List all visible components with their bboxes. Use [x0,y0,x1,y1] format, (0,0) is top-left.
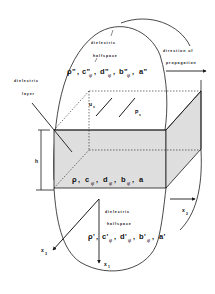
svg-text:ijl: ijl [91,182,94,186]
svg-text:ρ: ρ [72,175,77,184]
p-vector-line [119,98,135,117]
lower-halfspace-boundary [54,188,166,271]
svg-text:ijl: ijl [127,74,130,78]
layer-pointer-line [32,103,72,152]
propagation-label-line2: propagation [166,61,197,65]
svg-text:ijl: ijl [109,239,112,243]
propagation-label-line1: direction of [163,49,193,53]
upper-region-label-line1: dielectric [91,41,116,45]
svg-text:ρ": ρ" [67,67,76,76]
svg-text:,: , [94,67,96,76]
layer-label-line2: layer [22,92,35,96]
svg-text:,: , [133,232,135,241]
svg-text:ijl: ijl [108,74,111,78]
u-vector-line [96,98,112,116]
svg-text:a": a" [139,67,148,76]
svg-text:,: , [132,175,134,184]
upper-region-label-line2: halfspace [93,54,118,58]
upper-arc [121,19,190,46]
svg-text:ijl: ijl [89,74,92,78]
svg-text:a': a' [159,232,166,241]
svg-text:,: , [132,67,134,76]
svg-text:d: d [103,175,108,184]
svg-text:ijl: ijl [147,239,150,243]
lower-params: ρ' , c' ijl , d' ijl , b' ijl , a' [88,232,166,243]
svg-text:ijl: ijl [128,239,131,243]
svg-text:,: , [96,232,98,241]
x3-label: x [41,247,44,253]
svg-text:ρ': ρ' [88,232,95,241]
lower-region-label-line2: halfspace [107,222,132,226]
diagram-canvas: h dielectric layer dielectric halfspace … [0,0,215,294]
svg-text:,: , [114,175,116,184]
x3-axis [53,199,99,250]
layer-front-face [54,130,166,188]
lower-region-label-line1: dielectric [105,210,130,214]
layer-label-line1: dielectric [14,79,39,83]
svg-text:,: , [77,67,79,76]
svg-text:ijl: ijl [109,182,112,186]
svg-text:2: 2 [186,212,188,216]
svg-text:,: , [152,232,154,241]
top-left-edge [54,91,89,130]
x1-label: x [104,261,107,267]
svg-text:s: s [93,105,95,109]
svg-text:,: , [96,175,98,184]
upper-params: ρ" , c" ijl , d" ijl , b" ijl , a" [67,67,148,78]
svg-text:1: 1 [108,265,110,269]
thickness-label: h [35,158,38,164]
svg-text:,: , [113,67,115,76]
svg-text:,: , [78,175,80,184]
svg-text:c: c [85,175,90,184]
svg-text:a: a [139,175,144,184]
svg-text:c': c' [102,232,109,241]
svg-text:d': d' [120,232,127,241]
svg-text:s: s [139,113,141,117]
svg-text:b': b' [139,232,146,241]
x2-label: x [182,207,185,213]
svg-text:b: b [121,175,126,184]
svg-text:,: , [114,232,116,241]
layer-right-face [166,91,201,188]
u-label: u [89,101,92,107]
svg-text:3: 3 [45,252,47,256]
svg-text:ijl: ijl [127,182,130,186]
